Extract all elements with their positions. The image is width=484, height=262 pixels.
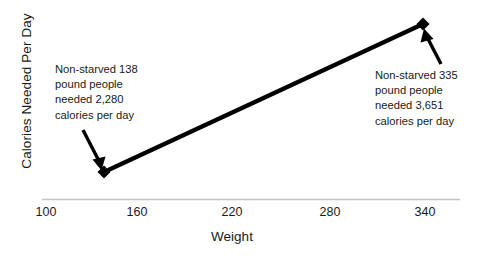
x-axis-tick-0: 100 [36, 205, 57, 220]
annotation-right-line-2: pound people [375, 83, 458, 98]
annotation-right-line-3: needed 3,651 [375, 98, 458, 113]
chart-plot-area [0, 0, 484, 262]
annotation-arrow-right [421, 29, 442, 65]
annotation-left-line-4: calories per day [55, 108, 138, 123]
annotation-text-right: Non-starved 335 pound people needed 3,65… [375, 68, 458, 129]
x-axis-tick-2: 220 [222, 205, 243, 220]
data-point-marker-2 [417, 18, 430, 31]
annotation-arrow-left [83, 130, 106, 171]
x-axis-tick-1: 160 [127, 205, 148, 220]
y-axis-label: Calories Needed Per Day [18, 1, 36, 181]
chart-container: Calories Needed Per Day 100 160 220 280 … [0, 0, 484, 262]
annotation-left-line-2: pound people [55, 77, 138, 92]
annotation-right-line-1: Non-starved 335 [375, 68, 458, 83]
x-axis-tick-3: 280 [320, 205, 341, 220]
annotation-right-line-4: calories per day [375, 114, 458, 129]
annotation-left-line-1: Non-starved 138 [55, 62, 138, 77]
annotation-left-line-3: needed 2,280 [55, 92, 138, 107]
x-axis-label: Weight [211, 228, 253, 245]
x-axis-tick-4: 340 [415, 205, 436, 220]
annotation-text-left: Non-starved 138 pound people needed 2,28… [55, 62, 138, 123]
